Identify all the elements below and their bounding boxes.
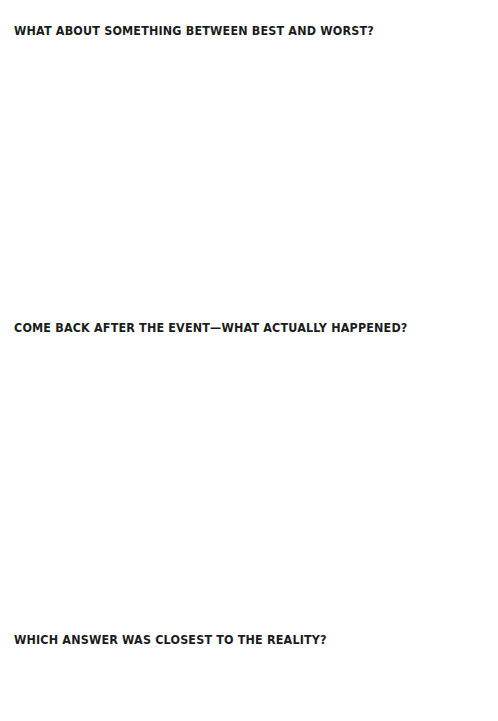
writing-area-between <box>14 50 484 300</box>
writing-area-closest <box>14 658 484 718</box>
writing-area-actual <box>14 345 484 605</box>
prompt-heading-actual: COME BACK AFTER THE EVENT—WHAT ACTUALLY … <box>14 320 408 335</box>
prompt-heading-closest: WHICH ANSWER WAS CLOSEST TO THE REALITY? <box>14 632 327 647</box>
prompt-heading-between: WHAT ABOUT SOMETHING BETWEEN BEST AND WO… <box>14 23 374 38</box>
